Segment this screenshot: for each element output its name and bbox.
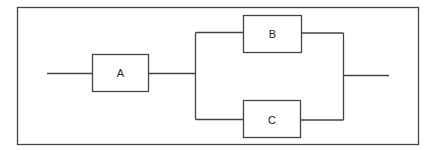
- block-c: C: [244, 101, 301, 138]
- block-b-label: B: [269, 28, 276, 40]
- block-b: B: [244, 16, 302, 53]
- reliability-block-diagram: A B C: [0, 0, 436, 150]
- block-a-label: A: [117, 67, 125, 79]
- block-c-label: C: [268, 114, 276, 126]
- block-a: A: [93, 55, 149, 92]
